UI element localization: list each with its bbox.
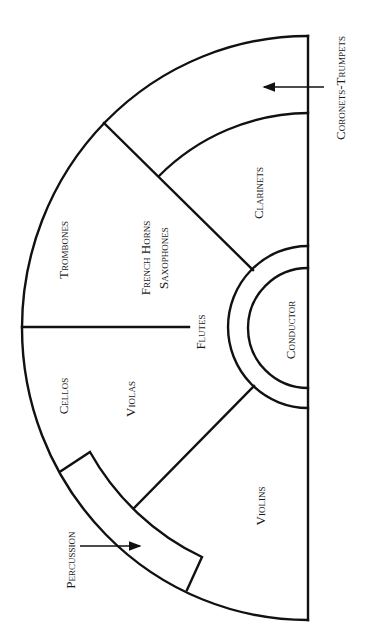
label-cellos: Cellos: [56, 378, 71, 415]
label-violins: Violins: [253, 487, 268, 526]
seating-diagram: Coronets-Trumpets Clarinets Trombones Fr…: [0, 0, 366, 636]
clarinets-boundary-arc: [159, 113, 308, 176]
label-french-horns: French Horns: [138, 221, 153, 295]
label-coronets-trumpets: Coronets-Trumpets: [333, 36, 348, 140]
label-violas: Violas: [123, 381, 138, 417]
percussion-box: [61, 452, 202, 590]
label-trombones: Trombones: [56, 221, 71, 279]
label-flutes: Flutes: [193, 314, 208, 349]
lower-divider: [134, 386, 254, 508]
label-saxophones: Saxophones: [156, 227, 171, 289]
label-conductor: Conductor: [283, 301, 298, 360]
label-percussion: Percussion: [63, 531, 78, 589]
conductor-podium: [248, 268, 308, 388]
label-clarinets: Clarinets: [251, 167, 266, 219]
upper-divider: [104, 123, 253, 270]
